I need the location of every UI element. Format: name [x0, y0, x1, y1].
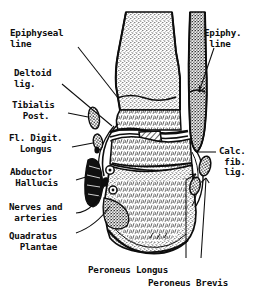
leader-fl-digit-longus [72, 143, 93, 147]
leader-tibialis-post [68, 113, 88, 117]
tibia-bone [116, 12, 181, 130]
label-peroneus-brevis: Peroneus Brevis [148, 278, 228, 289]
label-abductor-hallucis: Abductor Hallucis [10, 167, 58, 188]
leader-epiphyseal-line [78, 47, 118, 98]
tibialis-posterior-tendon [87, 106, 101, 129]
label-calc-fib-lig: Calc. fib. lig. [219, 146, 246, 178]
label-epiphy-line: Epiphy. line [204, 28, 241, 49]
label-tibialis-post: Tibialis Post. [12, 100, 55, 121]
label-fl-digit-longus: Fl. Digit. Longus [9, 133, 62, 154]
label-epiphyseal-line: Epiphyseal line [10, 28, 63, 49]
label-deltoid-lig: Deltoid lig. [14, 68, 51, 89]
label-quadratus-plantae: Quadratus Plantae [9, 231, 57, 252]
talus-bone [110, 137, 192, 171]
leader-deltoid-lig [62, 84, 112, 126]
label-nerves-and-arteries: Nerves and arteries [9, 202, 62, 223]
label-peroneus-longus: Peroneus Longus [88, 265, 168, 276]
abductor-hallucis-muscle [85, 159, 103, 207]
